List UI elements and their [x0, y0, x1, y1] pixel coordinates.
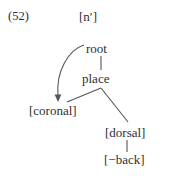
tree-node-place: place — [82, 72, 109, 85]
tree-node-coronal: [coronal] — [29, 104, 77, 117]
edge-place-dorsal — [101, 88, 128, 122]
tree-edges-layer — [0, 0, 170, 176]
tree-node-dorsal: [dorsal] — [105, 126, 145, 139]
figure-container: (52) [n′] root place [coronal] [dorsal] … — [0, 0, 170, 176]
spread-arrow-root-to-coronal — [58, 45, 84, 95]
spread-arrowhead-icon — [55, 95, 62, 103]
tree-node-root: root — [86, 42, 107, 55]
tree-node-back: [−back] — [104, 153, 145, 166]
edge-place-coronal — [67, 88, 101, 102]
